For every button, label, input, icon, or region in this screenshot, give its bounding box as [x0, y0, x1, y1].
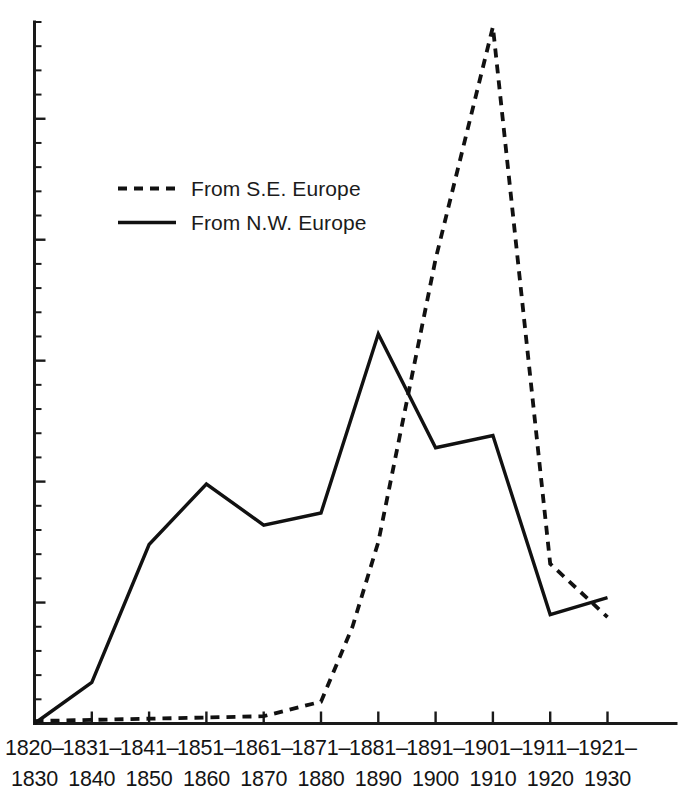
- chart-series-group: [35, 27, 608, 724]
- series-line-nw-europe: [35, 334, 608, 724]
- chart-legend: From S.E. Europe From N.W. Europe: [118, 177, 366, 234]
- x-axis-label-range-start: 1861–: [234, 736, 293, 760]
- y-axis-ticks: [35, 22, 46, 699]
- x-axis-label-range-start: 1851–: [177, 736, 236, 760]
- x-axis-label-range-end: 1930: [584, 767, 631, 791]
- x-axis-label-range-end: 1830: [11, 767, 58, 791]
- x-axis-label-range-start: 1881–: [349, 736, 408, 760]
- x-axis-label-range-start: 1871–: [292, 736, 351, 760]
- x-axis-label-range-end: 1840: [68, 767, 115, 791]
- x-axis-label-range-end: 1920: [527, 767, 574, 791]
- legend-label-nw-europe: From N.W. Europe: [191, 211, 366, 234]
- x-axis-label-range-start: 1921–: [578, 736, 637, 760]
- x-axis-labels: 1820–18301831–18401841–18501851–18601861…: [5, 736, 637, 791]
- x-axis-label-range-start: 1841–: [120, 736, 179, 760]
- chart-axes: [35, 22, 677, 724]
- x-axis-label-range-start: 1891–: [406, 736, 465, 760]
- x-axis-label-range-end: 1880: [297, 767, 344, 791]
- x-axis-label-range-start: 1820–: [5, 736, 64, 760]
- line-chart: From S.E. Europe From N.W. Europe 1820–1…: [0, 0, 688, 811]
- x-axis-label-range-start: 1901–: [464, 736, 523, 760]
- legend-label-se-europe: From S.E. Europe: [191, 177, 361, 200]
- x-axis-label-range-end: 1860: [183, 767, 230, 791]
- x-axis-label-range-end: 1900: [412, 767, 459, 791]
- x-axis-label-range-end: 1910: [469, 767, 516, 791]
- x-axis-label-range-end: 1870: [240, 767, 287, 791]
- x-axis-label-range-end: 1850: [126, 767, 173, 791]
- x-axis-label-range-start: 1911–: [522, 736, 579, 760]
- x-axis-label-range-start: 1831–: [62, 736, 121, 760]
- chart-page: From S.E. Europe From N.W. Europe 1820–1…: [0, 0, 688, 811]
- x-axis-label-range-end: 1890: [355, 767, 402, 791]
